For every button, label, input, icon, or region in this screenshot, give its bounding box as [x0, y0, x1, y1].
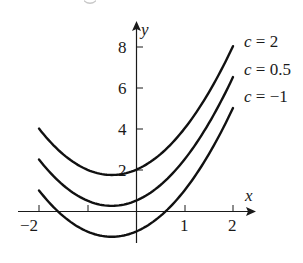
curve-label-c2: c = 2: [244, 32, 278, 51]
solution-curves-chart: −2 1 2 x 8 6 4 2 y c = 2 c = 0.5 c = −1: [0, 0, 303, 263]
x-tick-label-2: 2: [228, 216, 237, 235]
y-axis-label: y: [139, 20, 149, 39]
y-tick-label-8: 8: [118, 38, 127, 57]
x-tick-label-neg2: −2: [20, 216, 38, 235]
y-axis: 8 6 4 2 y: [118, 20, 149, 243]
y-tick-label-4: 4: [118, 120, 127, 139]
y-tick-label-2: 2: [118, 161, 127, 180]
x-tick-label-1: 1: [180, 216, 189, 235]
y-tick-label-6: 6: [118, 79, 127, 98]
cropped-text-fragment: [84, 0, 96, 4]
x-axis-label: x: [244, 186, 253, 205]
curve-label-c0-5: c = 0.5: [244, 60, 291, 79]
curve-label-cm1: c = −1: [244, 87, 288, 106]
